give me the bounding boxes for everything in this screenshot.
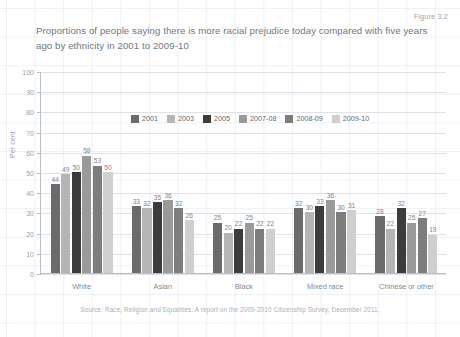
bar[interactable] xyxy=(61,174,70,273)
bar-column[interactable]: 32 xyxy=(294,72,303,273)
y-axis-title: Per cent xyxy=(8,131,17,158)
y-axis-tick-label: 0 xyxy=(30,271,34,278)
bar[interactable] xyxy=(397,208,406,273)
bar[interactable] xyxy=(142,208,151,273)
legend-swatch-icon xyxy=(332,115,340,123)
y-axis-tick-label: 50 xyxy=(26,170,34,177)
bar-column[interactable]: 22 xyxy=(255,72,264,273)
bar[interactable] xyxy=(386,229,395,273)
bar[interactable] xyxy=(428,235,437,273)
legend-item[interactable]: 2001 xyxy=(131,114,158,123)
bar-column[interactable]: 30 xyxy=(305,72,314,273)
bar-column[interactable]: 25 xyxy=(407,72,416,273)
bar-group: 282232252719Chinese or other xyxy=(366,72,447,273)
bar-value-label: 33 xyxy=(316,198,323,205)
legend-item[interactable]: 2005 xyxy=(203,114,230,123)
bar[interactable] xyxy=(213,223,222,274)
bar[interactable] xyxy=(174,208,183,273)
bar-value-label: 49 xyxy=(62,166,69,173)
bar-column[interactable]: 36 xyxy=(163,72,172,273)
legend-swatch-icon xyxy=(131,115,139,123)
legend-swatch-icon xyxy=(167,115,175,123)
bar[interactable] xyxy=(185,220,194,273)
bar-column[interactable]: 30 xyxy=(336,72,345,273)
bar[interactable] xyxy=(245,223,254,274)
bar-column[interactable]: 33 xyxy=(315,72,324,273)
y-axis-tick-label: 80 xyxy=(26,109,34,116)
legend-swatch-icon xyxy=(203,115,211,123)
legend-item[interactable]: 2003 xyxy=(167,114,194,123)
bar[interactable] xyxy=(224,233,233,273)
bar-column[interactable]: 28 xyxy=(375,72,384,273)
bar[interactable] xyxy=(326,200,335,273)
bar[interactable] xyxy=(82,156,91,273)
bar-column[interactable]: 19 xyxy=(428,72,437,273)
legend-item[interactable]: 2009-10 xyxy=(332,114,369,123)
bar-column[interactable]: 22 xyxy=(234,72,243,273)
bar-value-label: 50 xyxy=(104,164,111,171)
y-axis-tick-label: 100 xyxy=(22,69,34,76)
bar-column[interactable]: 33 xyxy=(132,72,141,273)
bar-column[interactable]: 32 xyxy=(174,72,183,273)
legend-label: 2008-09 xyxy=(296,114,322,123)
bar-column[interactable]: 20 xyxy=(224,72,233,273)
bar-column[interactable]: 22 xyxy=(266,72,275,273)
bar-column[interactable]: 50 xyxy=(72,72,81,273)
bar-column[interactable]: 32 xyxy=(142,72,151,273)
legend-item[interactable]: 2007-08 xyxy=(239,114,276,123)
bar[interactable] xyxy=(336,212,345,273)
legend-label: 2009-10 xyxy=(343,114,369,123)
bar-value-label: 44 xyxy=(51,176,58,183)
y-axis-tick-label: 60 xyxy=(26,149,34,156)
y-axis-tick-label: 30 xyxy=(26,210,34,217)
bar-column[interactable]: 44 xyxy=(51,72,60,273)
bar[interactable] xyxy=(305,212,314,273)
bar-value-label: 30 xyxy=(306,204,313,211)
x-axis-category-label: Asian xyxy=(154,282,173,291)
bar[interactable] xyxy=(103,172,112,273)
bar[interactable] xyxy=(72,172,81,273)
bar-groups: 444950585350White333235363226Asian252022… xyxy=(41,72,446,273)
bar-column[interactable]: 22 xyxy=(386,72,395,273)
bar[interactable] xyxy=(93,166,102,273)
gridline xyxy=(41,274,446,275)
bar-value-label: 32 xyxy=(143,200,150,207)
figure-number: Figure 3.2 xyxy=(414,12,448,21)
bar[interactable] xyxy=(347,210,356,273)
legend-swatch-icon xyxy=(285,115,293,123)
bar-value-label: 22 xyxy=(256,220,263,227)
bar-group: 444950585350White xyxy=(41,72,122,273)
bar-column[interactable]: 35 xyxy=(153,72,162,273)
x-axis-category-label: Mixed race xyxy=(307,282,343,291)
bar[interactable] xyxy=(315,206,324,273)
bar[interactable] xyxy=(132,206,141,273)
chart-page: Figure 3.2 Proportions of people saying … xyxy=(0,0,460,337)
bar[interactable] xyxy=(294,208,303,273)
bar[interactable] xyxy=(407,223,416,274)
bar-column[interactable]: 50 xyxy=(103,72,112,273)
bar-column[interactable]: 36 xyxy=(326,72,335,273)
bar-column[interactable]: 25 xyxy=(213,72,222,273)
legend-swatch-icon xyxy=(239,115,247,123)
bar-column[interactable]: 49 xyxy=(61,72,70,273)
bar-column[interactable]: 58 xyxy=(82,72,91,273)
legend-item[interactable]: 2008-09 xyxy=(285,114,322,123)
bar[interactable] xyxy=(375,216,384,273)
bar[interactable] xyxy=(163,200,172,273)
bar[interactable] xyxy=(266,229,275,273)
bar[interactable] xyxy=(234,229,243,273)
bar[interactable] xyxy=(255,229,264,273)
bar-column[interactable]: 27 xyxy=(418,72,427,273)
bar-column[interactable]: 26 xyxy=(185,72,194,273)
bar-column[interactable]: 31 xyxy=(347,72,356,273)
bar[interactable] xyxy=(418,218,427,273)
bar-column[interactable]: 53 xyxy=(93,72,102,273)
y-axis-tick-label: 70 xyxy=(26,129,34,136)
bar-group: 252022252222Black xyxy=(203,72,284,273)
legend-label: 2005 xyxy=(214,114,230,123)
bar[interactable] xyxy=(153,202,162,273)
bar-column[interactable]: 32 xyxy=(397,72,406,273)
bar-column[interactable]: 25 xyxy=(245,72,254,273)
bar[interactable] xyxy=(51,184,60,273)
legend-label: 2001 xyxy=(142,114,158,123)
